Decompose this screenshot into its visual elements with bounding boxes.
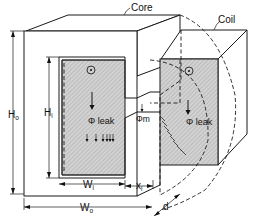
wo-label: Wo — [80, 202, 93, 214]
phi-leak-coil-label: Φ leak — [186, 117, 213, 127]
core-label: Core — [131, 2, 153, 13]
wi-label: Wi — [83, 179, 94, 191]
xi-label: xi — [136, 180, 142, 192]
coil-label: Coil — [218, 14, 235, 25]
core-coil-diagram: Core Coil Ho Hi Wi Wo xi d Φm Φ leak Φ l… — [0, 0, 257, 224]
core-leader-line — [124, 8, 130, 15]
phi-m-label: Φm — [136, 114, 150, 124]
d-label: d — [163, 201, 169, 212]
ho-label: Ho — [8, 109, 19, 121]
gap-step — [137, 92, 160, 98]
phi-leak-window-label: Φ leak — [88, 116, 115, 126]
